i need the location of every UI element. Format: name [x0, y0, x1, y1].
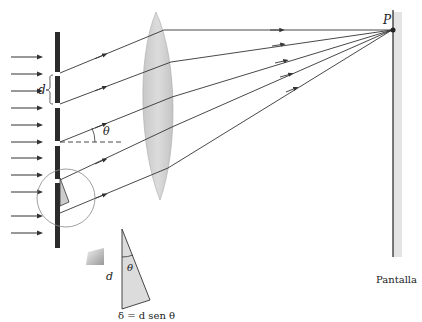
- slit-spacing-brace: [46, 75, 53, 104]
- point-p-label: P: [382, 13, 392, 27]
- diffraction-diagram: d θ d θ δ = d sen θ P Pa: [0, 0, 422, 322]
- inset-side-label: d: [106, 270, 113, 283]
- diffracted-rays: [60, 30, 392, 213]
- screen-label: Pantalla: [376, 274, 417, 285]
- angle-label: θ: [103, 125, 110, 138]
- incident-light-arrows: [11, 57, 40, 233]
- ray-arrowheads: [95, 30, 296, 199]
- diffraction-grating: [55, 32, 60, 248]
- small-path-triangle: [60, 178, 69, 206]
- zoom-indicator-wedge: [86, 248, 104, 265]
- inset-angle-label: θ: [127, 262, 133, 273]
- path-difference-label: δ = d sen θ: [118, 310, 175, 321]
- slit-spacing-label: d: [38, 83, 46, 97]
- point-p-dot: [391, 28, 396, 33]
- path-difference-inset: d θ δ = d sen θ: [106, 229, 175, 321]
- screen-shade: [393, 12, 402, 257]
- angle-arc: [92, 128, 95, 142]
